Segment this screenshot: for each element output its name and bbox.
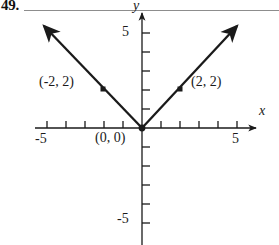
point-label-neg2-2: (-2, 2) [39, 74, 74, 90]
y-axis-label: y [133, 0, 139, 14]
point-label-origin: (0, 0) [95, 130, 125, 146]
curve-right-branch [142, 26, 237, 128]
y-tick-label-negative-5: -5 [117, 211, 129, 227]
point-marker-2-2 [178, 87, 183, 92]
x-tick-label-positive-5: 5 [232, 131, 239, 147]
coordinate-graph [0, 0, 279, 245]
x-axis-label: x [259, 103, 265, 119]
figure-page: 49. [0, 0, 279, 245]
x-tick-label-negative-5: -5 [35, 131, 47, 147]
y-tick-label-positive-5: 5 [122, 24, 129, 40]
point-marker-neg2-2 [101, 87, 106, 92]
point-label-2-2: (2, 2) [191, 74, 221, 90]
point-marker-origin [139, 125, 146, 132]
